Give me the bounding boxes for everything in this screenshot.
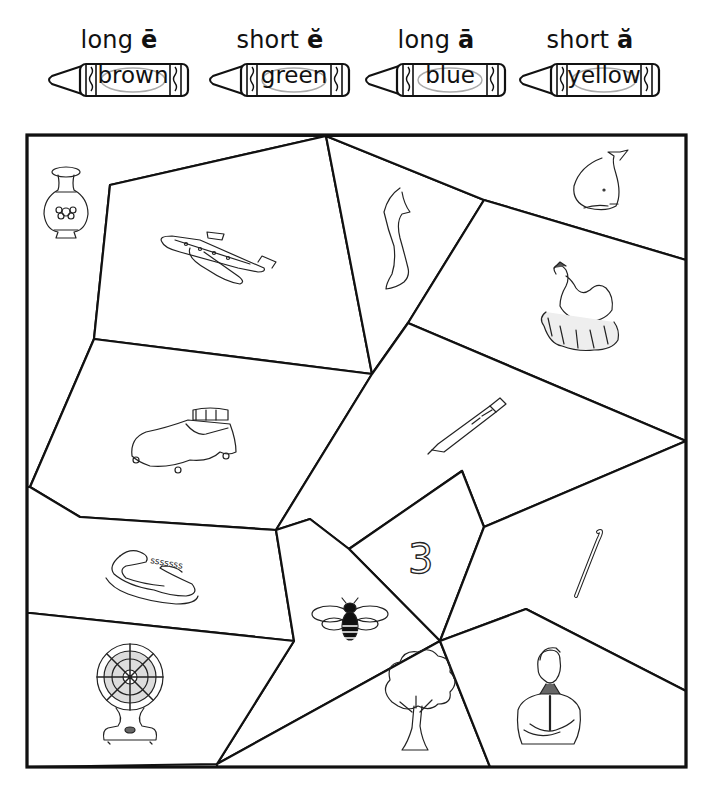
coloring-puzzle: sssssss 3 [0,0,712,788]
three-icon: 3 [408,536,433,582]
